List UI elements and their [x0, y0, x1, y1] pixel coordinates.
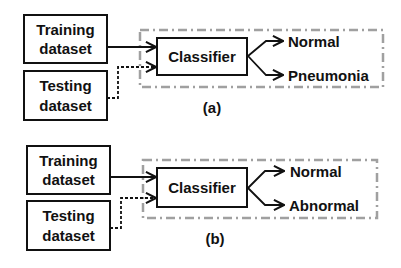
output-pneumonia: Pneumonia: [288, 67, 370, 84]
testing-dataset-box: Testing dataset: [24, 71, 107, 120]
classifier-box: Classifier: [157, 168, 247, 207]
testing-label-line1: Testing: [39, 77, 91, 94]
panel-caption-b: (b): [205, 230, 224, 247]
training-label-line2: dataset: [42, 171, 95, 188]
classifier-box: Classifier: [157, 38, 247, 75]
classifier-diagram: Training dataset Testing dataset Classif…: [0, 0, 401, 268]
training-label-line1: Training: [36, 21, 94, 38]
training-dataset-box: Training dataset: [24, 15, 107, 63]
training-label-line2: dataset: [39, 40, 92, 57]
output-normal: Normal: [290, 163, 342, 180]
testing-dataset-box: Testing dataset: [27, 201, 110, 250]
training-dataset-box: Training dataset: [27, 146, 110, 194]
panel-a: Training dataset Testing dataset Classif…: [24, 15, 383, 120]
testing-label-line2: dataset: [39, 97, 92, 114]
output-arrow-abnormal: [248, 188, 284, 205]
panel-caption-a: (a): [203, 99, 221, 116]
output-arrow-pneumonia: [248, 56, 283, 75]
classifier-label: Classifier: [168, 48, 236, 65]
output-abnormal: Abnormal: [289, 197, 359, 214]
testing-to-classifier-arrow: [110, 198, 156, 228]
output-normal: Normal: [288, 33, 340, 50]
classifier-label: Classifier: [168, 179, 236, 196]
output-arrow-normal: [248, 41, 283, 56]
testing-to-classifier-arrow: [107, 67, 156, 98]
training-label-line1: Training: [39, 152, 97, 169]
panel-b: Training dataset Testing dataset Classif…: [27, 146, 377, 250]
testing-label-line2: dataset: [42, 227, 95, 244]
testing-label-line1: Testing: [42, 207, 94, 224]
output-arrow-normal: [248, 171, 284, 188]
